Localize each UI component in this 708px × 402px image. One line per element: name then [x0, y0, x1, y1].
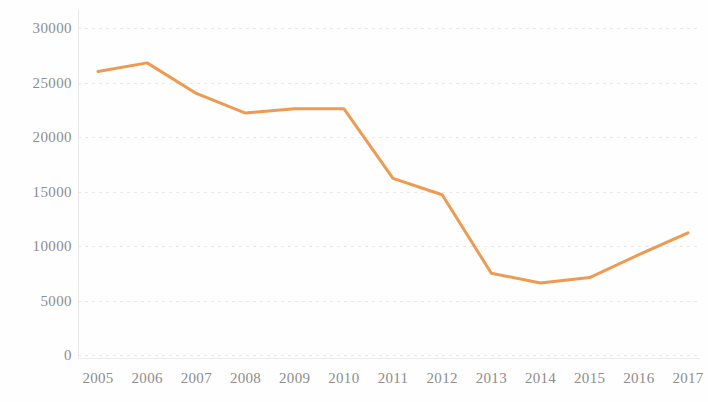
series-polyline	[98, 63, 688, 283]
data-series-line	[0, 0, 708, 402]
line-chart: 050001000015000200002500030000 200520062…	[0, 0, 708, 402]
